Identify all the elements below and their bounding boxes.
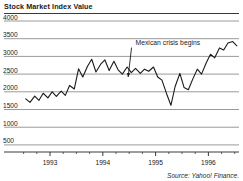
x-axis-tick-label: 1996 xyxy=(201,159,216,166)
y-axis-tick-label: 4000 xyxy=(3,14,18,21)
source-note: Source: Yahoo! Finance. xyxy=(167,172,239,179)
y-axis-tick-label: 2000 xyxy=(3,84,18,91)
y-axis-tick-label: 2500 xyxy=(3,67,18,74)
y-axis-tick-label: 1000 xyxy=(3,120,18,127)
y-axis-tick-label: 500 xyxy=(3,137,14,144)
x-axis-tick-label: 1993 xyxy=(43,159,58,166)
x-axis-tick-label: 1995 xyxy=(148,159,163,166)
y-axis-tick-label: 3000 xyxy=(3,49,18,56)
annotation-label: Mexican crisis begins xyxy=(136,39,201,47)
y-axis-tick-label: 1500 xyxy=(3,102,18,109)
y-axis-tick-label: 3500 xyxy=(3,31,18,38)
chart-figure: Stock Market Index Value 500100015002000… xyxy=(0,0,243,181)
x-axis-tick-label: 1994 xyxy=(95,159,110,166)
line-chart-plot: 5001000150020002500300035004000199319941… xyxy=(0,0,243,181)
